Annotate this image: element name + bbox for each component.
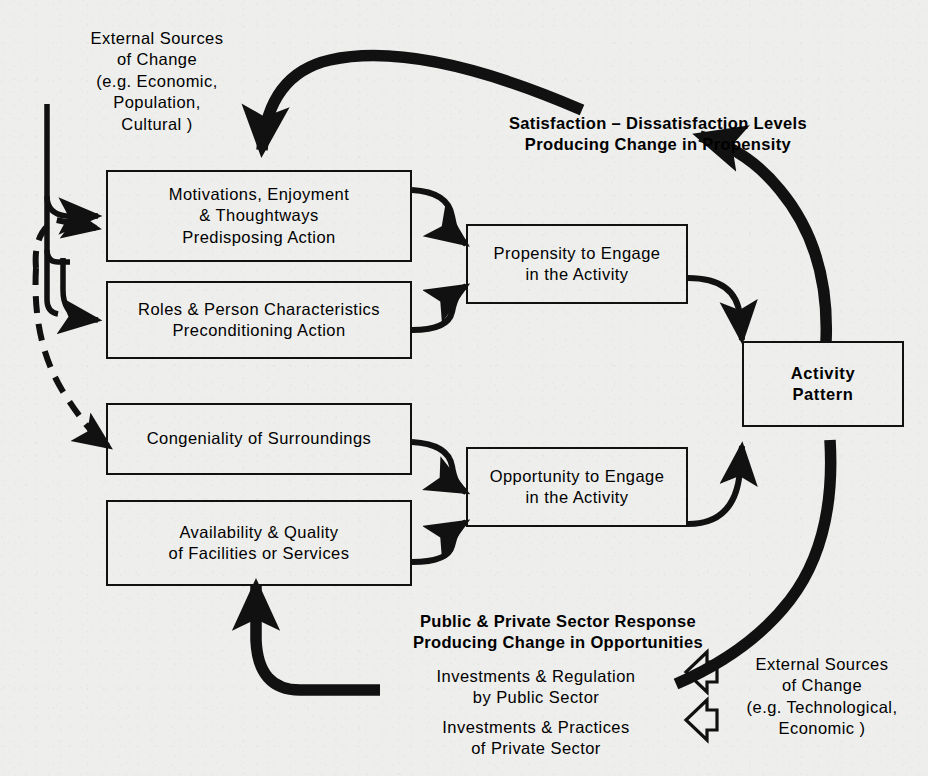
edge-activity-to-satisfaction <box>700 136 826 342</box>
congeniality-box-label: Congeniality of Surroundings <box>147 428 371 449</box>
activity-pattern-box-label: Activity Pattern <box>791 363 855 406</box>
roles-box[interactable]: Roles & Person Characteristics Precondit… <box>106 281 412 359</box>
motivations-box-label: Motivations, Enjoyment & Thoughtways Pre… <box>169 184 349 248</box>
external-sources-bottom-label: External Sources of Change (e.g. Technol… <box>722 654 922 740</box>
edge-congeniality-to-opportunity <box>412 442 466 492</box>
congeniality-box[interactable]: Congeniality of Surroundings <box>106 403 412 475</box>
opportunity-box-label: Opportunity to Engage in the Activity <box>490 466 665 509</box>
satisfaction-feedback-label: Satisfaction – Dissatisfaction Levels Pr… <box>448 113 868 156</box>
investments-private-label: Investments & Practices of Private Secto… <box>386 717 686 760</box>
opportunity-box[interactable]: Opportunity to Engage in the Activity <box>466 447 688 527</box>
diagram-canvas: Motivations, Enjoyment & Thoughtways Pre… <box>0 0 928 776</box>
edge-availability-to-opportunity <box>412 522 466 562</box>
edge-motivations-to-propensity <box>412 190 466 244</box>
edge-opportunity-to-activity <box>688 446 742 524</box>
edge-external-sources-trunk <box>47 104 98 320</box>
propensity-box-label: Propensity to Engage in the Activity <box>494 243 661 286</box>
propensity-box[interactable]: Propensity to Engage in the Activity <box>466 224 688 304</box>
activity-pattern-box[interactable]: Activity Pattern <box>742 341 904 427</box>
public-private-feedback-label: Public & Private Sector Response Produci… <box>348 611 768 654</box>
availability-box[interactable]: Availability & Quality of Facilities or … <box>106 500 412 586</box>
availability-box-label: Availability & Quality of Facilities or … <box>169 522 350 565</box>
hollow-arrow-icon-lower <box>686 700 717 740</box>
edge-roles-to-propensity <box>412 286 466 330</box>
motivations-box[interactable]: Motivations, Enjoyment & Thoughtways Pre… <box>106 170 412 262</box>
roles-box-label: Roles & Person Characteristics Precondit… <box>138 299 380 342</box>
external-sources-top-label: External Sources of Change (e.g. Economi… <box>42 28 272 135</box>
investments-public-label: Investments & Regulation by Public Secto… <box>386 666 686 709</box>
edge-propensity-to-activity <box>688 278 742 340</box>
